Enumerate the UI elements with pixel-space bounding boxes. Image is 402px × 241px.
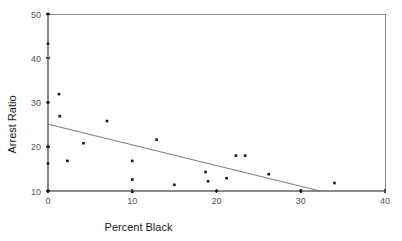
- x-tick-label: 20: [211, 196, 221, 206]
- data-point[interactable]: [204, 171, 207, 174]
- data-point[interactable]: [299, 190, 302, 193]
- y-tick-label: 40: [31, 54, 41, 64]
- data-point-group: [47, 13, 336, 193]
- data-point[interactable]: [131, 178, 134, 181]
- data-point[interactable]: [215, 190, 218, 193]
- data-point[interactable]: [58, 93, 61, 96]
- x-tick-label: 30: [296, 196, 306, 206]
- data-point[interactable]: [131, 160, 134, 163]
- data-point[interactable]: [244, 154, 247, 157]
- data-point[interactable]: [47, 101, 50, 104]
- data-point[interactable]: [131, 191, 134, 194]
- x-tick-label: 10: [127, 196, 137, 206]
- x-tick-label: 40: [380, 196, 390, 206]
- data-point[interactable]: [47, 13, 50, 16]
- data-point[interactable]: [333, 182, 336, 185]
- data-point[interactable]: [106, 120, 109, 123]
- data-point[interactable]: [47, 162, 50, 165]
- y-tick-label: 30: [31, 98, 41, 108]
- data-point[interactable]: [66, 160, 69, 163]
- x-axis-title: Percent Black: [105, 221, 173, 233]
- data-point[interactable]: [155, 138, 158, 141]
- regression-line: [48, 124, 320, 191]
- data-point[interactable]: [82, 142, 85, 145]
- y-axis-title: Arrest Ratio: [6, 95, 18, 153]
- y-tick-label: 20: [31, 142, 41, 152]
- data-point[interactable]: [58, 115, 61, 118]
- data-point[interactable]: [235, 154, 238, 157]
- data-point[interactable]: [173, 184, 176, 187]
- data-point[interactable]: [207, 180, 210, 183]
- data-point[interactable]: [47, 190, 50, 193]
- data-point[interactable]: [47, 42, 50, 45]
- data-point[interactable]: [47, 145, 50, 148]
- plot-frame: [48, 14, 385, 191]
- data-point[interactable]: [225, 177, 228, 180]
- scatter-chart: 1020304050010203040Percent BlackArrest R…: [0, 0, 402, 241]
- y-tick-label: 10: [31, 187, 41, 197]
- y-tick-label: 50: [31, 10, 41, 20]
- plot-canvas: 1020304050010203040Percent BlackArrest R…: [0, 0, 402, 241]
- x-tick-label: 0: [45, 196, 50, 206]
- data-point[interactable]: [267, 173, 270, 176]
